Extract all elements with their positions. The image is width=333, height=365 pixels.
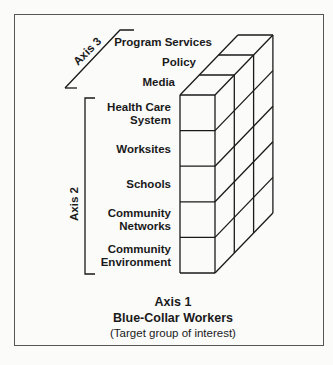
- cube-side-diagonal: [215, 106, 273, 166]
- cube-side-diagonal: [215, 35, 273, 95]
- axis2-item-health-care-line1: Health Care: [107, 101, 171, 113]
- cube-side-diagonal: [215, 71, 273, 131]
- axis2-item-health-care-line2: System: [130, 114, 171, 126]
- axis3-item-media: Media: [142, 76, 175, 88]
- axis2-item-community-environment-line1: Community: [108, 243, 172, 255]
- cube-grid: [180, 35, 273, 273]
- axis3-item-program-services: Program Services: [114, 36, 212, 48]
- axis1-subtitle: Blue-Collar Workers: [113, 311, 233, 325]
- axis2-item-community-environment-line2: Environment: [101, 256, 171, 268]
- axis3-title: Axis 3: [71, 35, 103, 67]
- cube-side-diagonal: [215, 142, 273, 202]
- cube-side-diagonal: [215, 177, 273, 237]
- cube-diagram: Axis 3 Program Services Policy Media Axi…: [0, 0, 333, 365]
- axis2-item-schools: Schools: [126, 178, 171, 190]
- axis1-title: Axis 1: [155, 295, 192, 309]
- axis2-bracket: [85, 98, 95, 274]
- axis2-item-worksites: Worksites: [116, 143, 171, 155]
- axis2-title: Axis 2: [68, 187, 80, 221]
- axis3-item-policy: Policy: [162, 56, 196, 68]
- axis2-item-community-networks-line2: Networks: [119, 220, 171, 232]
- axis1-note: (Target group of interest): [110, 327, 236, 339]
- axis2-item-community-networks-line1: Community: [108, 207, 172, 219]
- cube-side-diagonal: [215, 213, 273, 273]
